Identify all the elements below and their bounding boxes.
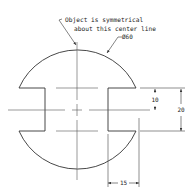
center-lines (8, 42, 150, 180)
technical-drawing: 10 20 15 Object is symmetrical about thi… (0, 0, 195, 195)
dim-10-label: 10 (151, 96, 159, 103)
diameter-label: Ø60 (122, 33, 133, 40)
dim-20-label: 20 (177, 106, 185, 113)
part-outline (19, 50, 136, 169)
diameter-leader (107, 37, 122, 53)
note-line-2: about this center line (74, 25, 156, 32)
note-line-1: Object is symmetrical (65, 16, 144, 24)
dim-15-label: 15 (120, 179, 128, 186)
extension-lines (108, 88, 185, 187)
